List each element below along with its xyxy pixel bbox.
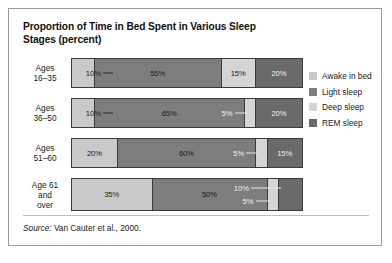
bar-segment: 10% [279, 179, 302, 210]
bar-row-label-line: Ages [36, 143, 55, 153]
bar-segment-value: 55% [150, 69, 165, 78]
legend-item: Light sleep [309, 87, 389, 97]
bar-segment-value: 15% [231, 69, 246, 78]
source-citation: Van Cauter et al., 2000. [52, 223, 141, 233]
bar-segment-value: 10% [86, 69, 101, 78]
legend-swatch-icon [309, 119, 317, 127]
bar-row-label-line: Ages [36, 103, 55, 113]
bar-segment: 20% [256, 59, 302, 87]
callout-leader-line [235, 113, 247, 114]
bar-row-label: Age 61andover [23, 176, 67, 214]
callout-leader-line [103, 113, 113, 114]
bar-row-label-line: 36–50 [33, 113, 56, 123]
bar-segment-value: 35% [104, 190, 119, 199]
bar-segment-value: 10% [234, 183, 249, 192]
chart-title: Proportion of Time in Bed Spent in Vario… [23, 20, 263, 46]
bar-segment-callout: 5% [233, 149, 258, 158]
bar-segment-value: 15% [277, 149, 292, 158]
bar-segment-value: 5% [222, 109, 233, 118]
bar-segment: 10% [72, 59, 95, 87]
bar-segment: 20% [72, 139, 118, 167]
bar-row: Ages36–5010%65%5%20% [23, 96, 303, 130]
bar-segment: 55% [95, 59, 222, 87]
bar-segment-value: 50% [202, 190, 217, 199]
bar-segment: 15% [222, 59, 257, 87]
bar-row-label-line: 16–35 [33, 73, 56, 83]
bar-segment: 20% [256, 99, 302, 127]
bar-segment: 5% [245, 99, 257, 127]
bar-segment-value: 5% [233, 149, 244, 158]
legend-item-label: Deep sleep [322, 102, 364, 112]
bar-row-label-line: Age 61 [32, 180, 58, 190]
bar-row-label-line: over [37, 200, 53, 210]
bar-segment-value: 20% [271, 69, 286, 78]
legend-swatch-icon [309, 88, 317, 96]
callout-leader-line [103, 73, 113, 74]
stacked-bar: 10%65%5%20% [71, 98, 303, 128]
legend-item: REM sleep [309, 118, 389, 128]
callout-leader-line [251, 187, 281, 188]
bar-row-label-line: 51–60 [33, 153, 56, 163]
bar-row: Ages16–3510%55%15%20% [23, 56, 303, 90]
legend-item-label: REM sleep [322, 118, 363, 128]
source-divider [23, 215, 369, 216]
legend-item: Deep sleep [309, 102, 389, 112]
callout-leader-line [256, 200, 270, 201]
legend-item-label: Light sleep [322, 87, 362, 97]
figure-frame: Proportion of Time in Bed Spent in Vario… [8, 8, 382, 246]
legend-swatch-icon [309, 72, 317, 80]
legend-swatch-icon [309, 103, 317, 111]
bar-segment: 15% [268, 139, 303, 167]
bar-segment-value: 5% [243, 196, 254, 205]
source-label: Source: [23, 223, 52, 233]
stacked-bar: 10%55%15%20% [71, 58, 303, 88]
bar-row: Age 61andover35%50%5%10% [23, 176, 303, 214]
bar-row-label-line: Ages [36, 63, 55, 73]
bar-segment-value: 20% [87, 149, 102, 158]
bar-segment: 10% [72, 99, 95, 127]
bar-segment-callout: 5% [243, 196, 270, 205]
bar-segment-value: 65% [162, 109, 177, 118]
legend-item: Awake in bed [309, 71, 389, 81]
legend-item-label: Awake in bed [322, 71, 372, 81]
bar-segment-callout: 10% [234, 183, 281, 192]
bar-row-label: Ages36–50 [23, 96, 67, 130]
stacked-bar: 35%50%5%10% [71, 178, 303, 211]
bar-segment-callout: 10% [86, 69, 113, 78]
bar-segment-value: 60% [179, 149, 194, 158]
bar-row-label-line: and [38, 190, 52, 200]
bar-segment-value: 10% [86, 109, 101, 118]
bar-row-label: Ages51–60 [23, 136, 67, 170]
callout-leader-line [246, 153, 258, 154]
bar-segment-callout: 5% [222, 109, 247, 118]
chart-legend: Awake in bedLight sleepDeep sleepREM sle… [309, 71, 389, 133]
source-note: Source: Van Cauter et al., 2000. [23, 223, 141, 233]
bar-segment-value: 20% [271, 109, 286, 118]
bar-row-label: Ages16–35 [23, 56, 67, 90]
bar-row: Ages51–6020%60%5%15% [23, 136, 303, 170]
bar-segment: 35% [72, 179, 153, 210]
stacked-bar: 20%60%5%15% [71, 138, 303, 168]
plot-area: Ages16–3510%55%15%20%Ages36–5010%65%5%20… [23, 56, 303, 216]
bar-segment: 5% [256, 139, 268, 167]
bar-segment-callout: 10% [86, 109, 113, 118]
